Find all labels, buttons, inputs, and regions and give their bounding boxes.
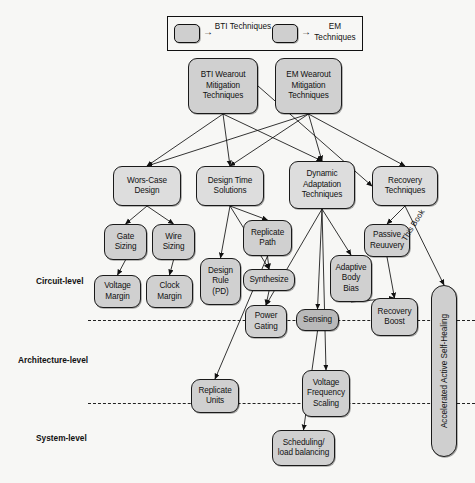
node-label-line: Techniques (199, 91, 248, 102)
edge-dyn_adapt-to-adaptive_body (322, 209, 351, 255)
node-label-line: Clock (155, 281, 183, 292)
node-sensing[interactable]: Sensing (296, 309, 339, 331)
node-label-design_rule: DesignRule(PD) (206, 266, 235, 298)
legend-label-em-line2: Techniques (314, 33, 355, 42)
edge-em_root-to-dyn_adapt (309, 114, 323, 161)
node-label-line: Replicate (196, 386, 233, 397)
node-label-line: Synthesize (247, 275, 290, 286)
node-label-line: Replicate (249, 228, 286, 239)
node-label-worst_case: Wors-CaseDesign (125, 176, 169, 197)
node-label-line: Sizing (113, 242, 139, 253)
node-label-line: Scheduling/ (276, 438, 331, 449)
node-worst_case[interactable]: Wors-CaseDesign (113, 166, 181, 206)
node-label-line: Techniques (284, 91, 332, 102)
edge-em_root-to-worst_case (147, 114, 309, 166)
node-label-vf_scaling: VoltageFrequencyScaling (305, 378, 347, 410)
node-label-replicate_path: ReplicatePath (249, 228, 286, 249)
node-replicate_path[interactable]: ReplicatePath (243, 220, 292, 256)
node-label-wire_sizing: WireSizing (161, 232, 187, 253)
edge-design_time-to-design_rule (221, 206, 231, 258)
node-label-line: Margin (155, 292, 183, 303)
legend-label-bti-line1: BTI (215, 22, 228, 31)
edge-worst_case-to-wire_sizing (147, 206, 174, 224)
node-label-line: Adaptive (333, 263, 368, 274)
edge-worst_case-to-gate_sizing (126, 206, 148, 224)
node-label-line: Mitigation (199, 81, 248, 92)
node-label-gate_sizing: GateSizing (113, 232, 139, 253)
node-label-line: Sizing (161, 242, 187, 253)
node-volt_margin[interactable]: VoltageMargin (94, 275, 141, 308)
node-dyn_adapt[interactable]: DynamicAdaptationTechniques (289, 161, 355, 209)
edge-dyn_adapt-to-sensing (318, 209, 323, 309)
node-label-line: Power (252, 311, 280, 322)
legend-label-em-line1: EM (329, 22, 341, 31)
edge-recovery-to-passive_rec (387, 206, 405, 224)
node-recovery[interactable]: RecoveryTechniques (372, 166, 438, 206)
node-label-line: Bias (333, 284, 368, 295)
node-label-volt_margin: VoltageMargin (102, 281, 133, 302)
node-label-line: Margin (102, 292, 133, 303)
node-replicate_units[interactable]: ReplicateUnits (191, 379, 239, 413)
node-label-line: Wors-Case (125, 176, 169, 187)
node-recovery_boost[interactable]: RecoveryBoost (371, 298, 418, 336)
legend-label-em: EM Techniques (309, 22, 361, 43)
node-label-line: BTI Wearout (199, 70, 248, 81)
node-label-line: Body (333, 273, 368, 284)
node-label-adaptive_body: AdaptiveBodyBias (333, 263, 368, 295)
node-vf_scaling[interactable]: VoltageFrequencyScaling (302, 370, 350, 417)
node-label-dyn_adapt: DynamicAdaptationTechniques (300, 169, 344, 201)
node-label-scheduling: Scheduling/load balancing (276, 438, 331, 459)
node-label-sensing: Sensing (301, 315, 334, 326)
node-label-line: Reuuvery (368, 241, 406, 252)
node-label-line: Recovery (376, 307, 414, 318)
node-bti_root[interactable]: BTI WearoutMitigationTechniques (188, 58, 258, 114)
node-label-line: Solutions (206, 186, 254, 197)
legend-arrow-bti: → (201, 27, 215, 38)
node-label-synthesize: Synthesize (247, 275, 290, 286)
node-label-line: load balancing (276, 448, 331, 459)
node-label-recovery: RecoveryTechniques (383, 176, 427, 197)
node-label-line: Design Time (206, 176, 254, 187)
node-design_time[interactable]: Design TimeSolutions (196, 166, 264, 206)
legend-swatch-em (272, 24, 298, 43)
node-design_rule[interactable]: DesignRule(PD) (200, 258, 241, 305)
node-wire_sizing[interactable]: WireSizing (152, 224, 195, 260)
edge-bti_root-to-worst_case (147, 114, 223, 166)
edge-gate_sizing-to-volt_margin (118, 260, 126, 275)
node-em_root[interactable]: EM WearoutMitigationTechniques (275, 58, 342, 114)
node-adaptive_body[interactable]: AdaptiveBodyBias (330, 255, 372, 302)
edge-dyn_adapt-to-vf_scaling (322, 209, 326, 370)
edge-passive_rec-to-recovery_boost (387, 257, 395, 298)
node-clock_margin[interactable]: ClockMargin (146, 275, 193, 308)
node-label-line: Recovery (383, 176, 427, 187)
legend-label-bti-line2: Techniques (230, 22, 271, 31)
node-label-line: Path (249, 238, 286, 249)
node-label-line: Gating (252, 322, 280, 333)
node-label-replicate_units: ReplicateUnits (196, 386, 233, 407)
node-label-line: Boost (376, 317, 414, 328)
edge-em_root-to-design_time (230, 114, 309, 166)
node-scheduling[interactable]: Scheduling/load balancing (272, 430, 335, 466)
legend-swatch-bti (174, 24, 200, 43)
node-label-line: Voltage (102, 281, 133, 292)
node-label-line: Voltage (305, 378, 347, 389)
diagram-canvas: → BTI Techniques → EM Techniques Circuit… (0, 0, 475, 483)
edge-recovery-to-self_healing (405, 206, 444, 285)
node-label-line: EM Wearout (284, 70, 332, 81)
level-label-circuit: Circuit-level (36, 276, 84, 286)
edge-wire_sizing-to-clock_margin (170, 260, 174, 275)
node-gate_sizing[interactable]: GateSizing (104, 224, 147, 260)
node-power_gating[interactable]: PowerGating (245, 305, 287, 338)
node-label-line: (PD) (206, 287, 235, 298)
node-label-line: Units (196, 396, 233, 407)
node-label-line: Gate (113, 232, 139, 243)
node-label-self_healing: Accelerated Active Self-Healing (440, 314, 449, 428)
node-label-design_time: Design TimeSolutions (206, 176, 254, 197)
node-synthesize[interactable]: Synthesize (243, 269, 295, 291)
node-label-bti_root: BTI WearoutMitigationTechniques (199, 70, 248, 102)
node-label-em_root: EM WearoutMitigationTechniques (284, 70, 332, 102)
node-self_healing[interactable]: Accelerated Active Self-Healing (431, 285, 457, 457)
architecture-system-divider (88, 403, 475, 404)
node-label-line: Frequency (305, 388, 347, 399)
level-label-architecture: Architecture-level (18, 355, 88, 365)
